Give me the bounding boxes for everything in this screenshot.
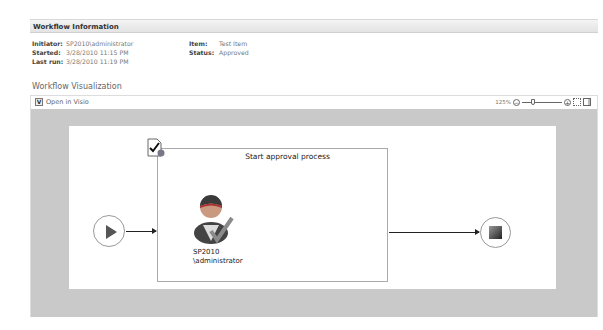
step-title: Start approval process (158, 152, 387, 161)
status-label: Status: (189, 49, 217, 56)
zoom-in-icon[interactable]: + (564, 99, 571, 106)
toggle-panel-icon[interactable] (583, 98, 591, 106)
start-icon[interactable] (93, 215, 125, 247)
workflow-visualization-title: Workflow Visualization (32, 82, 122, 91)
workflow-information-header: Workflow Information (30, 19, 598, 33)
started-label: Started: (32, 49, 64, 56)
item-label: Item: (189, 40, 217, 47)
open-in-visio-button[interactable]: V Open in Visio (35, 98, 89, 106)
diagram-canvas[interactable]: Start approval process SP2010 \administr… (31, 109, 597, 317)
initiator-value: SP2010\administrator (66, 40, 133, 47)
zoom-out-icon[interactable]: − (513, 99, 520, 106)
item-value[interactable]: Test Item (219, 40, 247, 47)
connector-arrow-start (126, 231, 156, 232)
approval-task-icon (147, 138, 165, 158)
initiator-label: Initiator: (32, 40, 64, 47)
user-approved-icon (191, 189, 236, 244)
visualization-toolbar: V Open in Visio 125% − + (31, 96, 597, 109)
zoom-slider[interactable] (522, 102, 562, 103)
fit-page-icon[interactable] (573, 98, 581, 106)
last-run-label: Last run: (32, 58, 64, 65)
stop-icon[interactable] (480, 217, 511, 248)
last-run-row: Last run: 3/28/2010 11:19 PM (32, 58, 129, 68)
last-run-value: 3/28/2010 11:19 PM (66, 58, 129, 65)
started-value: 3/28/2010 11:15 PM (66, 49, 129, 56)
status-value: Approved (219, 49, 249, 56)
status-row: Status: Approved (189, 49, 249, 59)
visualization-frame: V Open in Visio 125% − + Start approval … (30, 95, 598, 317)
assignee-label: SP2010 \administrator (193, 248, 243, 266)
diagram-page: Start approval process SP2010 \administr… (69, 126, 556, 289)
visio-icon: V (35, 98, 43, 106)
zoom-level: 125% (495, 99, 511, 105)
open-in-visio-label: Open in Visio (46, 98, 89, 106)
zoom-slider-thumb[interactable] (531, 99, 535, 105)
zoom-controls: 125% − + (495, 98, 591, 106)
connector-arrow-end (389, 232, 479, 233)
